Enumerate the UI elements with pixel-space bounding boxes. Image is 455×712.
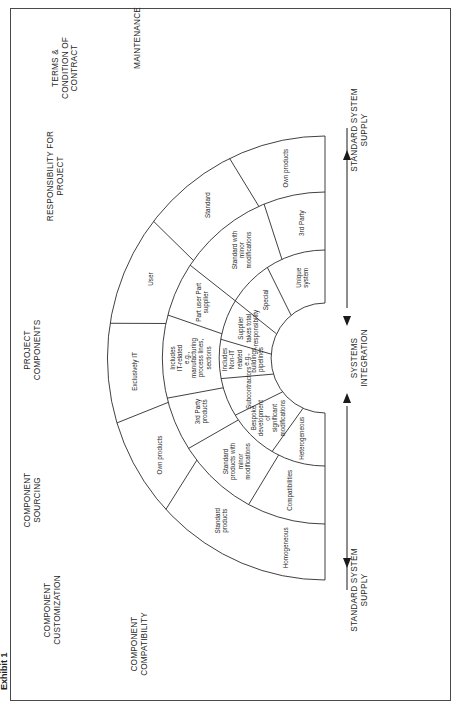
cell-4-middle: 3rd Partyproducts — [194, 398, 209, 424]
divider — [267, 267, 291, 315]
divider — [264, 204, 282, 259]
divider — [154, 221, 194, 260]
divider — [166, 460, 197, 509]
heading-0: MAINTENANCE — [133, 7, 142, 69]
arrow-up-icon — [343, 393, 351, 403]
heading-1: TERMS &CONDITION OFCONTRACT — [51, 37, 79, 99]
cell-2-middle: Part user Partsupplier — [195, 283, 210, 322]
axis-labels: STANDARD SYSTEMSUPPLYSYSTEMSINTEGRATIONS… — [350, 88, 369, 631]
sector-cells: Own products3rd PartyUniquesystemStandar… — [131, 149, 310, 569]
cell-5-outer: Standardproducts — [214, 507, 229, 533]
divider — [249, 455, 279, 504]
cell-0-middle: 3rd Party — [298, 209, 306, 235]
cell-0-outer: Own products — [282, 149, 290, 188]
dimension-headings: MAINTENANCETERMS &CONDITION OFCONTRACTRE… — [23, 7, 149, 676]
cell-3-outer: Exclusively IT — [131, 352, 139, 391]
arrow-down-icon — [343, 316, 351, 326]
cell-1-middle: Standard withminormodifications — [231, 230, 252, 269]
cell-3-middle: IncludesIT-relatede.g.,manufacturingproc… — [169, 338, 212, 378]
axis-label-top-end: STANDARD SYSTEMSUPPLY — [350, 88, 369, 171]
cell-1-outer: Standard — [204, 192, 211, 218]
cell-5-middle: Standardproducts withminormodifications — [222, 442, 251, 480]
exhibit-label: Exhibit 1 — [0, 652, 9, 690]
heading-5: COMPONENTCUSTOMIZATION — [43, 575, 62, 645]
cell-2-outer: User — [147, 272, 154, 285]
cell-4-inner: Subcontractors — [245, 367, 252, 409]
systems-integration-semicircle-diagram: Exhibit 1 Own products3rd PartyUniquesys… — [0, 0, 455, 712]
cell-2-inner: Suppliertakes totalresponsibility — [237, 309, 259, 346]
heading-3: PROJECTCOMPONENTS — [23, 319, 42, 380]
cell-6-outer: Homogeneous — [282, 527, 290, 568]
heading-4: COMPONENTSOURCING — [23, 472, 42, 527]
heading-6: COMPONENTCOMPATIBILITY — [130, 612, 149, 676]
divider — [230, 158, 259, 206]
cell-1-inner: Special — [262, 290, 270, 311]
cell-6-inner: Heterogeneous — [298, 417, 306, 460]
divider — [167, 388, 223, 398]
cell-3-inner: IncludesNon-ITrelatede.g.,buildings,pipe… — [221, 346, 265, 373]
divider — [117, 402, 168, 423]
inner-circle — [271, 303, 325, 413]
heading-2: RESPONSIBILITY FORPROJECT — [46, 131, 65, 221]
cell-4-outer: Own products — [156, 436, 164, 475]
cell-6-middle: Compatibilities — [286, 470, 294, 511]
axis-label-center: SYSTEMSINTEGRATION — [350, 329, 369, 387]
axis-label-bottom-end: STANDARD SYSTEMSUPPLY — [350, 548, 369, 631]
cell-0-inner: Uniquesystem — [295, 267, 310, 287]
